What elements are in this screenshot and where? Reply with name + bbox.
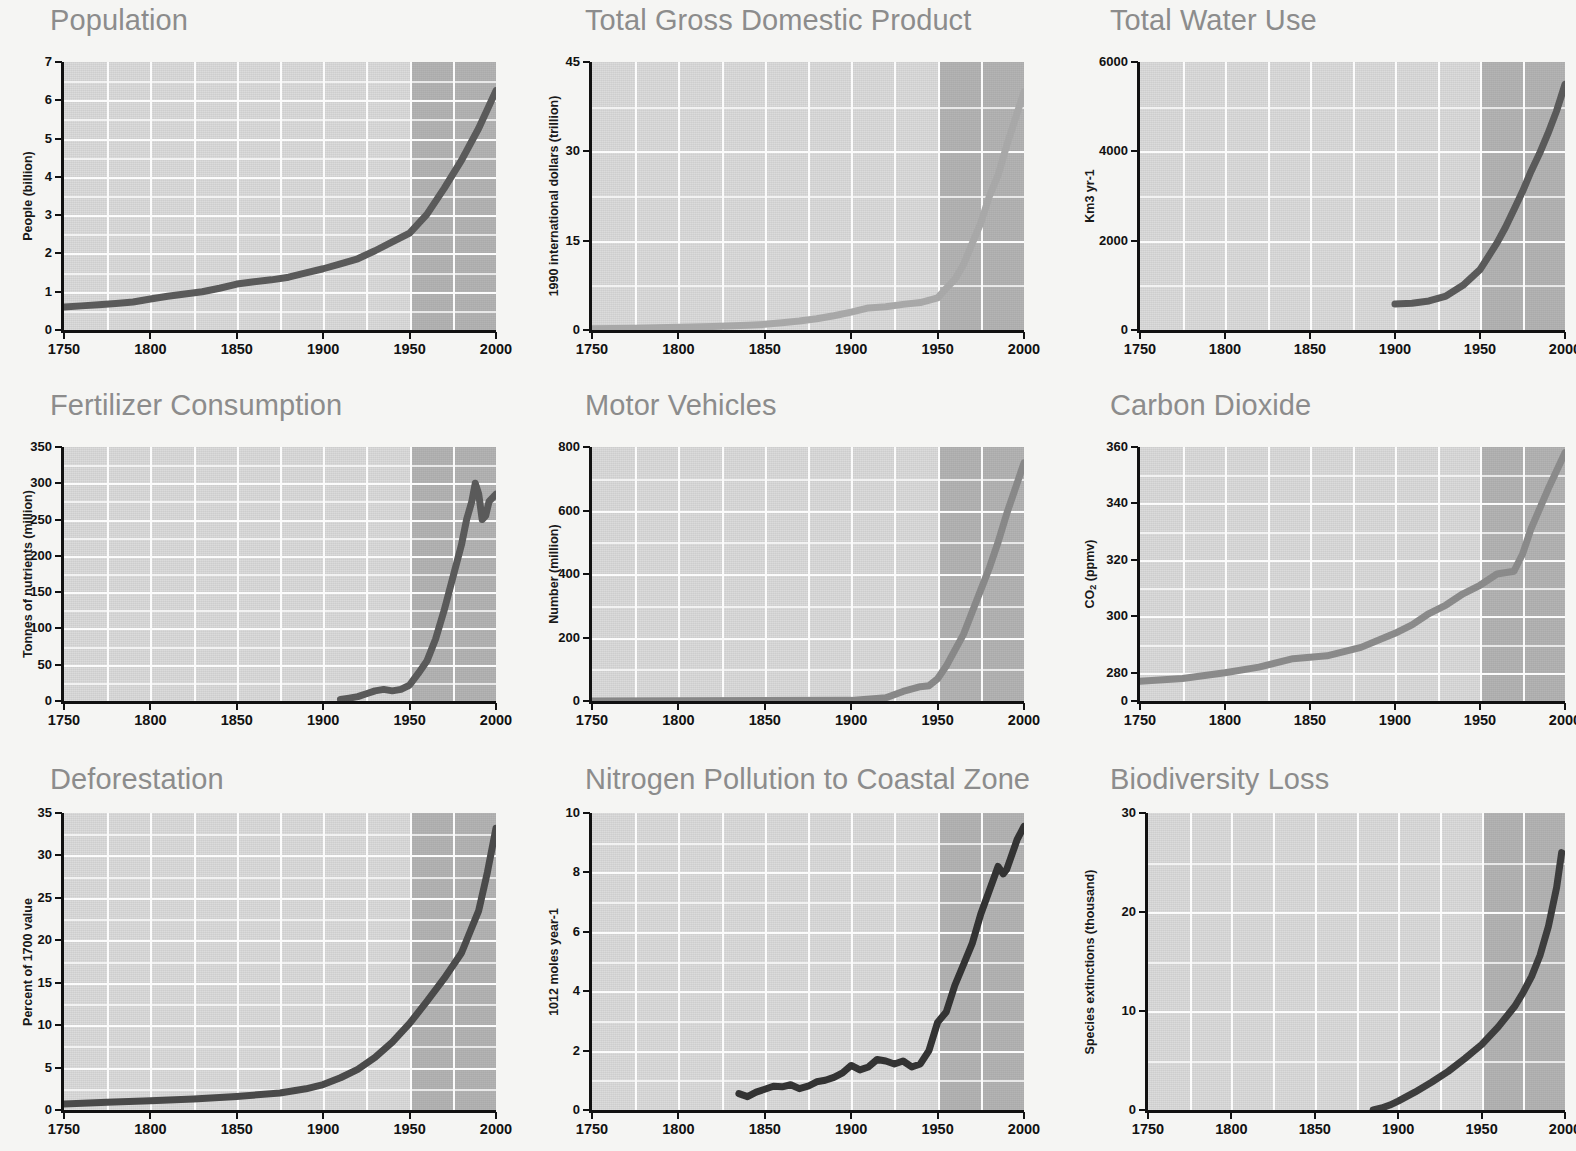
x-tick-mark xyxy=(677,1112,679,1119)
chart-panel-fertilizer: Fertilizer Consumption050100150200250300… xyxy=(0,0,1576,1151)
y-tick-label: 600 xyxy=(544,504,580,517)
y-tick-mark xyxy=(55,1109,62,1111)
gridline-horizontal-minor xyxy=(64,311,496,313)
y-tick-mark xyxy=(55,700,62,702)
gridline-horizontal xyxy=(64,253,496,255)
y-tick-mark xyxy=(55,291,62,293)
x-tick-mark xyxy=(764,703,766,710)
gridline-horizontal-minor xyxy=(592,479,1024,481)
x-tick-label: 1850 xyxy=(203,342,271,357)
gridline-horizontal-minor xyxy=(64,234,496,236)
gridline-vertical xyxy=(678,447,680,701)
data-curve-deforestation xyxy=(64,813,496,1110)
gridline-vertical xyxy=(1480,62,1482,330)
gridline-horizontal-minor xyxy=(64,919,496,921)
y-tick-mark xyxy=(1131,150,1138,152)
gridline-vertical xyxy=(1268,447,1270,701)
x-tick-label: 1900 xyxy=(289,713,357,728)
gridline-horizontal xyxy=(64,855,496,857)
y-tick-mark xyxy=(55,854,62,856)
plot-area-fertilizer xyxy=(64,447,496,701)
chart-title-population: Population xyxy=(50,6,188,35)
x-tick-mark xyxy=(322,332,324,339)
gridline-horizontal-minor xyxy=(64,834,496,836)
plot-texture-carbon_dioxide xyxy=(1140,447,1565,701)
gridline-vertical xyxy=(410,447,412,701)
y-tick-label: 280 xyxy=(1080,666,1128,679)
great-acceleration-figure: Population012345671750180018501900195020… xyxy=(0,0,1576,1151)
x-tick-label: 1900 xyxy=(817,713,885,728)
y-tick-mark xyxy=(583,329,590,331)
gridline-horizontal xyxy=(64,983,496,985)
gridline-horizontal xyxy=(64,520,496,522)
gridline-horizontal-minor xyxy=(1140,645,1565,647)
y-tick-mark xyxy=(55,982,62,984)
x-tick-label: 1800 xyxy=(1191,342,1259,357)
gridline-horizontal-minor xyxy=(64,81,496,83)
y-tick-mark xyxy=(583,871,590,873)
gridline-vertical xyxy=(894,62,896,330)
gridline-vertical xyxy=(635,813,637,1110)
y-tick-label: 4 xyxy=(544,984,580,997)
x-tick-mark xyxy=(322,1112,324,1119)
gridline-horizontal-minor xyxy=(1140,107,1565,109)
gridline-vertical xyxy=(765,62,767,330)
x-tick-label: 2000 xyxy=(1531,1122,1576,1137)
y-tick-mark xyxy=(55,482,62,484)
post-1950-shading-motor_vehicles xyxy=(938,447,1024,701)
gridline-vertical xyxy=(453,447,455,701)
gridline-horizontal xyxy=(64,1025,496,1027)
x-tick-label: 1850 xyxy=(731,342,799,357)
plot-texture-deforestation xyxy=(64,813,496,1110)
y-tick-label: 7 xyxy=(16,55,52,68)
gridline-horizontal xyxy=(592,1051,1024,1053)
gridline-vertical xyxy=(981,62,983,330)
y-tick-label: 4 xyxy=(16,170,52,183)
x-axis-line-biodiversity xyxy=(1145,1110,1565,1113)
y-tick-label: 2 xyxy=(16,246,52,259)
gridline-vertical xyxy=(1315,813,1317,1110)
x-tick-label: 1950 xyxy=(376,1122,444,1137)
x-tick-mark xyxy=(495,703,497,710)
x-tick-mark xyxy=(1224,332,1226,339)
y-tick-label: 150 xyxy=(16,585,52,598)
gridline-vertical xyxy=(1523,813,1525,1110)
chart-panel-deforestation: Deforestation051015202530351750180018501… xyxy=(0,0,1576,1151)
y-tick-mark xyxy=(583,700,590,702)
y-axis-label-motor_vehicles: Number (million) xyxy=(548,524,561,623)
y-tick-label: 0 xyxy=(1080,694,1128,707)
y-tick-mark xyxy=(1131,615,1138,617)
gridline-horizontal-minor xyxy=(64,501,496,503)
y-tick-mark xyxy=(1139,911,1146,913)
x-tick-label: 1850 xyxy=(203,713,271,728)
gridline-vertical xyxy=(194,813,196,1110)
y-tick-mark xyxy=(583,1050,590,1052)
gridline-horizontal xyxy=(64,628,496,630)
gridline-vertical xyxy=(1438,447,1440,701)
y-tick-label: 35 xyxy=(16,806,52,819)
gridline-horizontal-minor xyxy=(592,606,1024,608)
x-tick-label: 1850 xyxy=(731,713,799,728)
data-curve-gdp xyxy=(592,62,1024,330)
x-tick-label: 1900 xyxy=(1361,342,1429,357)
gridline-horizontal-minor xyxy=(592,285,1024,287)
x-tick-label: 1950 xyxy=(376,713,444,728)
y-tick-label: 0 xyxy=(544,694,580,707)
gridline-vertical xyxy=(107,447,109,701)
y-tick-label: 1 xyxy=(16,285,52,298)
y-tick-mark xyxy=(55,446,62,448)
y-tick-label: 10 xyxy=(1088,1004,1136,1017)
x-tick-mark xyxy=(236,1112,238,1119)
x-tick-label: 1800 xyxy=(116,342,184,357)
gridline-vertical xyxy=(323,813,325,1110)
x-tick-mark xyxy=(850,1112,852,1119)
gridline-vertical xyxy=(1398,813,1400,1110)
gridline-vertical xyxy=(938,813,940,1110)
x-tick-mark xyxy=(1023,332,1025,339)
chart-panel-population: Population012345671750180018501900195020… xyxy=(0,0,1576,1151)
x-tick-label: 1800 xyxy=(644,342,712,357)
gridline-vertical xyxy=(1440,813,1442,1110)
plot-texture-gdp xyxy=(592,62,1024,330)
y-tick-label: 0 xyxy=(544,1103,580,1116)
y-tick-label: 2 xyxy=(544,1044,580,1057)
